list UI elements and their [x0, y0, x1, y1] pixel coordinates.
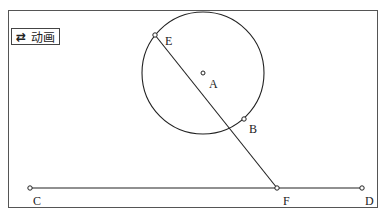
label-A: A [209, 77, 218, 91]
label-C: C [33, 194, 41, 208]
point-B[interactable] [242, 117, 246, 121]
point-C[interactable] [28, 186, 32, 190]
point-F[interactable] [275, 186, 279, 190]
label-F: F [283, 194, 290, 208]
point-D[interactable] [360, 186, 364, 190]
label-B: B [249, 122, 257, 136]
segment-EF [155, 35, 277, 188]
geometry-canvas: A B C D E F [0, 0, 385, 220]
point-A[interactable] [201, 71, 205, 75]
label-D: D [365, 194, 374, 208]
point-E[interactable] [153, 33, 157, 37]
label-E: E [165, 34, 172, 48]
